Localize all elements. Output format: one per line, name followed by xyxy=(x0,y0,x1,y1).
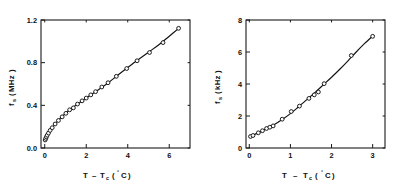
data-point-marker xyxy=(177,26,181,30)
data-point-marker xyxy=(371,34,375,38)
x-label-open-right: ( xyxy=(315,171,318,180)
y-tick-label: 0.8 xyxy=(27,58,37,67)
axis-tick-labels-right: 012302468 xyxy=(238,16,375,160)
fit-curve-right xyxy=(249,36,372,137)
x-label-lead-right: T xyxy=(282,171,287,180)
data-point-marker xyxy=(316,90,320,94)
y-label-unit-right: kHz xyxy=(213,75,222,90)
axis-tick-labels-left: 02460.00.40.81.2 xyxy=(27,16,172,160)
data-point-marker xyxy=(68,108,72,112)
data-point-marker xyxy=(114,74,118,78)
data-point-marker xyxy=(271,124,275,128)
x-label-subscript-left: c xyxy=(106,175,109,181)
data-point-marker xyxy=(322,82,326,86)
data-point-marker xyxy=(161,41,165,45)
x-tick-label: 0 xyxy=(247,151,251,160)
y-label-close-left: ) xyxy=(7,69,16,72)
data-point-marker xyxy=(57,119,61,123)
data-point-marker xyxy=(307,97,311,101)
figure-container: 02460.00.40.81.2 T – T c ( ° C ) f s ( M… xyxy=(0,0,403,191)
x-tick-label: 6 xyxy=(167,151,171,160)
y-label-subscript-left: s xyxy=(11,99,17,102)
y-axis-label-right: f s ( kHz ) xyxy=(213,70,223,104)
x-label-lead-left: T xyxy=(83,171,88,180)
x-label-minus-left: – xyxy=(92,171,97,180)
y-label-subscript-right: s xyxy=(217,97,223,100)
data-point-marker xyxy=(89,93,93,97)
fit-curve-left xyxy=(45,28,180,141)
y-label-open-left: ( xyxy=(7,93,16,96)
y-tick-label: 0 xyxy=(238,144,242,153)
data-point-marker xyxy=(280,117,284,121)
y-tick-label: 0.4 xyxy=(27,101,38,110)
x-tick-label: 2 xyxy=(329,151,333,160)
data-point-marker xyxy=(76,102,80,106)
chart-panel-left: 02460.00.40.81.2 T – T c ( ° C ) f s ( M… xyxy=(0,0,201,191)
y-axis-label-left: f s ( MHz ) xyxy=(7,69,17,106)
chart-panel-right: 012302468 T – T c ( ° C ) f s ( kHz ) xyxy=(202,0,403,191)
data-point-marker xyxy=(349,54,353,58)
x-tick-label: 0 xyxy=(43,151,47,160)
y-label-close-right: ) xyxy=(213,70,222,73)
y-label-symbol-left: f xyxy=(7,103,16,106)
data-point-marker xyxy=(256,131,260,135)
x-label-degree-right: ° xyxy=(321,169,323,175)
x-label-open-left: ( xyxy=(112,171,115,180)
y-tick-label: 8 xyxy=(238,16,242,25)
x-label-close-left: ) xyxy=(128,171,131,180)
data-point-marker xyxy=(298,104,302,108)
x-label-unit-right: C xyxy=(325,171,331,180)
x-tick-label: 3 xyxy=(371,151,375,160)
data-point-marker xyxy=(148,51,152,55)
data-point-marker xyxy=(312,93,316,97)
data-point-marker xyxy=(106,81,110,85)
x-tick-label: 2 xyxy=(84,151,88,160)
data-point-marker xyxy=(135,59,139,63)
x-label-minus-right: – xyxy=(293,171,298,180)
x-axis-label-right: T – T c ( ° C ) xyxy=(282,169,335,181)
x-label-unit-left: C xyxy=(121,171,127,180)
data-markers-right xyxy=(249,34,375,138)
axis-ticks-left xyxy=(41,20,190,148)
y-tick-label: 2 xyxy=(238,112,242,121)
y-label-unit-left: MHz xyxy=(7,75,16,92)
y-label-open-right: ( xyxy=(213,91,222,94)
y-tick-label: 1.2 xyxy=(27,16,37,25)
data-point-marker xyxy=(289,110,293,114)
data-point-marker xyxy=(71,106,75,110)
plot-frame-left xyxy=(41,20,190,148)
x-tick-label: 1 xyxy=(288,151,292,160)
data-point-marker xyxy=(53,122,57,126)
y-tick-label: 4 xyxy=(238,80,243,89)
data-point-marker xyxy=(60,115,64,119)
x-tick-label: 4 xyxy=(126,151,131,160)
y-tick-label: 6 xyxy=(238,48,242,57)
x-label-degree-left: ° xyxy=(117,169,119,175)
data-point-marker xyxy=(261,129,265,133)
x-label-symbol-left: T xyxy=(100,171,105,180)
y-tick-label: 0.0 xyxy=(27,144,37,153)
data-point-marker xyxy=(80,99,84,103)
data-point-marker xyxy=(94,90,98,94)
y-label-symbol-right: f xyxy=(213,101,222,104)
x-label-symbol-right: T xyxy=(303,171,308,180)
data-point-marker xyxy=(84,96,88,100)
data-point-marker xyxy=(251,134,255,138)
data-point-marker xyxy=(50,126,54,130)
x-label-subscript-right: c xyxy=(309,175,312,181)
data-point-marker xyxy=(100,85,104,89)
data-point-marker xyxy=(125,67,129,71)
x-axis-label-left: T – T c ( ° C ) xyxy=(83,169,131,181)
data-point-marker xyxy=(64,111,68,115)
x-label-close-right: ) xyxy=(332,171,335,180)
